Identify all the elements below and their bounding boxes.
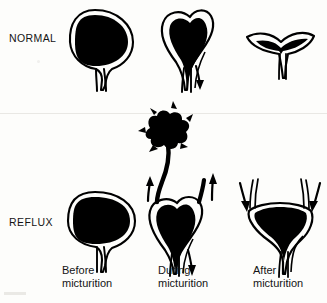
caption-line-1: Before — [62, 264, 94, 276]
bladder-urine-fill — [73, 197, 130, 244]
panel-normal-before-micturition — [70, 10, 133, 91]
right-ureteric-reflux-arrow — [209, 173, 217, 200]
dilated-renal-pelvis-blob — [138, 101, 193, 152]
bladder-urine-fill — [169, 18, 207, 88]
right-refluxing-ureter — [199, 180, 204, 202]
caption-line-2: micturition — [253, 277, 303, 290]
right-ureter-outline-inner — [301, 179, 304, 208]
reflux-diagram-figure: NORMAL REFLUX — [0, 0, 327, 303]
diagram-canvas — [0, 0, 327, 303]
panel-reflux-after-micturition — [240, 179, 320, 277]
urethra-outline-left — [279, 54, 280, 79]
left-ureter-outline-outer — [250, 180, 253, 208]
panel-normal-after-micturition — [247, 33, 314, 79]
dilated-ureter — [157, 144, 169, 202]
urethra-outline-left — [96, 69, 97, 91]
caption-line-1: After — [253, 264, 276, 276]
left-ureteric-reflux-arrow — [146, 176, 154, 201]
panel-normal-during-micturition — [162, 10, 213, 92]
caption-during-micturition: During micturition — [158, 264, 208, 289]
right-ureteric-return-arrow — [309, 183, 320, 212]
caption-line-2: micturition — [158, 277, 208, 290]
caption-after-micturition: After micturition — [253, 264, 303, 289]
caption-before-micturition: Before micturition — [62, 264, 112, 289]
left-ureteric-return-arrow — [240, 183, 250, 212]
right-ureter-outline-outer — [306, 180, 309, 208]
left-ureter-outline-inner — [255, 179, 258, 208]
caption-line-1: During — [158, 264, 190, 276]
panel-reflux-during-micturition — [138, 101, 217, 276]
urethral-outflow-arrow — [196, 66, 204, 90]
panel-reflux-before-micturition — [68, 192, 135, 272]
caption-line-2: micturition — [62, 277, 112, 290]
bladder-urine-fill — [75, 15, 128, 66]
